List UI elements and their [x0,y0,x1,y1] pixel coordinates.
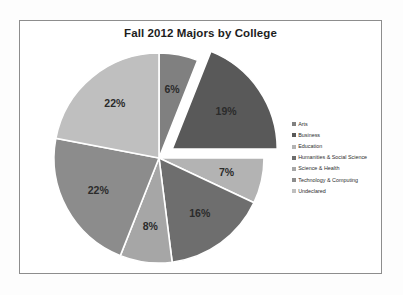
legend-item-label: Humanities & Social Science [298,155,367,160]
legend-item-label: Business [298,133,320,138]
legend-item[interactable]: Business [292,130,380,141]
pie-slice-label: 8% [143,220,159,232]
chart-legend: ArtsBusinessEducationHumanities & Social… [292,119,380,197]
legend-swatch-icon [292,178,296,182]
pie-chart: 6%19%7%16%8%22%22% [30,47,310,269]
legend-swatch-icon [292,145,296,149]
legend-swatch-icon [292,167,296,171]
legend-item[interactable]: Education [292,141,380,152]
pie-slice-label: 22% [88,184,110,196]
pie-slice-label: 7% [219,166,235,178]
chart-title: Fall 2012 Majors by College [20,27,381,39]
legend-item[interactable]: Humanities & Social Science [292,153,380,164]
legend-swatch-icon [292,122,296,126]
chart-frame: Fall 2012 Majors by College 6%19%7%16%8%… [19,20,382,274]
legend-swatch-icon [292,133,296,137]
legend-item-label: Undeclared [298,189,326,194]
legend-item[interactable]: Undeclared [292,186,380,197]
pie-slice-label: 19% [216,105,238,117]
pie-svg: 6%19%7%16%8%22%22% [30,47,310,269]
legend-item-label: Technology & Computing [298,178,358,183]
legend-item[interactable]: Science & Health [292,164,380,175]
legend-item[interactable]: Technology & Computing [292,175,380,186]
legend-item-label: Science & Health [298,166,339,171]
legend-swatch-icon [292,156,296,160]
legend-item[interactable]: Arts [292,119,380,130]
legend-swatch-icon [292,189,296,193]
legend-item-label: Education [298,144,322,149]
legend-item-label: Arts [298,122,308,127]
pie-slice-label: 6% [164,83,180,95]
page-background: Fall 2012 Majors by College 6%19%7%16%8%… [0,0,403,295]
pie-slice-label: 22% [104,97,126,109]
pie-slice-label: 16% [189,207,211,219]
